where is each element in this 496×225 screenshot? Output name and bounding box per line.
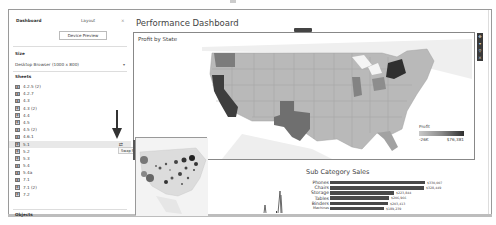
- sheet-label: 4.5: [23, 120, 30, 125]
- bar-row[interactable]: Machines $189,239: [300, 206, 480, 211]
- divider: [13, 46, 127, 47]
- symbol-map-thumbnail: [136, 138, 208, 216]
- legend-title: Profit: [419, 124, 469, 129]
- divider: [488, 10, 489, 214]
- bar-value: $223,844: [396, 191, 411, 195]
- dashboard-title: Performance Dashboard: [136, 18, 239, 28]
- bar[interactable]: [330, 191, 394, 195]
- drop-indicator: [133, 140, 135, 160]
- sheet-icon: ▦: [15, 142, 20, 147]
- bar-value: $328,449: [426, 186, 441, 190]
- sheet-label: 4.2.5 (2): [23, 84, 41, 89]
- sheets-section-title: Sheets: [15, 74, 31, 79]
- profit-legend: Profit -26K $76,381: [419, 124, 469, 143]
- tab-dashboard[interactable]: Dashboard: [16, 18, 42, 23]
- dropdown-icon[interactable]: ▾: [477, 40, 483, 47]
- sheet-item[interactable]: ▦5.4a: [15, 169, 127, 176]
- sheet-item[interactable]: ▦4.3: [15, 97, 127, 104]
- sheet-label: 4.2.7: [23, 91, 34, 96]
- sheet-item[interactable]: ▦4.4: [15, 112, 127, 119]
- tab-layout[interactable]: Layout: [81, 18, 95, 23]
- bar[interactable]: [330, 181, 425, 185]
- sheet-item[interactable]: ▦4.2.7: [15, 90, 127, 97]
- sheet-icon: ▦: [15, 185, 20, 190]
- sub-category-bar-chart: Phones $330,007 Chairs $328,449 Storage …: [300, 180, 480, 211]
- sheet-icon: ▦: [15, 128, 20, 133]
- bar-value: $330,007: [427, 181, 442, 185]
- sheet-icon: ▦: [15, 92, 20, 97]
- object-toolbar: ✥ ▾ ⚲ ×: [477, 33, 483, 61]
- close-icon[interactable]: ×: [477, 54, 483, 61]
- bar[interactable]: [330, 186, 424, 190]
- sub-category-title: Sub Category Sales: [306, 168, 370, 176]
- sheet-icon: ▦: [15, 85, 20, 90]
- sheet-item[interactable]: ▦5.2: [15, 148, 127, 155]
- sheet-icon: ▦: [15, 149, 20, 154]
- legend-max: $76,381: [447, 137, 464, 142]
- sheet-icon: ▦: [15, 99, 20, 104]
- bar-value: $203,413: [390, 202, 405, 206]
- horizontal-scrollbar[interactable]: [8, 214, 492, 217]
- sheet-icon: ▦: [15, 171, 20, 176]
- sheet-item[interactable]: ▦4.3 (2): [15, 105, 127, 112]
- sheet-icon: ▦: [15, 164, 20, 169]
- device-preview-button[interactable]: Device Preview: [59, 31, 107, 40]
- size-value: Desktop Browser (1000 x 800): [15, 62, 79, 67]
- sheet-icon: ▦: [15, 106, 20, 111]
- filter-icon[interactable]: ⚲: [477, 47, 483, 54]
- sheet-icon: ▦: [15, 135, 20, 140]
- sheet-label: 5.2: [23, 149, 30, 154]
- size-section-title: Size: [15, 51, 25, 56]
- sheet-item[interactable]: ▦4.5 (2): [15, 126, 127, 133]
- sheet-label: 7.1: [23, 177, 30, 182]
- sheet-item[interactable]: ▦4.2.5 (2): [15, 83, 127, 90]
- sheet-label: 4.3: [23, 98, 30, 103]
- close-icon[interactable]: ×: [121, 18, 125, 23]
- bar-value: $206,966: [391, 196, 406, 200]
- sheet-label: 5.4a: [23, 170, 32, 175]
- sheet-item[interactable]: ▦7.2: [15, 191, 127, 198]
- bar-value: $189,239: [386, 207, 401, 211]
- dragged-sheet-preview[interactable]: [135, 137, 207, 215]
- bar[interactable]: [330, 207, 384, 211]
- sheet-label: 4.4: [23, 113, 30, 118]
- sheet-label: 4.6.1: [23, 134, 34, 139]
- chevron-down-icon: ▾: [123, 62, 125, 67]
- sheet-icon: ▦: [15, 120, 20, 125]
- arrow-down-icon: [112, 110, 122, 140]
- sheet-label: 5.1: [23, 142, 30, 147]
- sheet-item[interactable]: ▦5.4: [15, 162, 127, 169]
- legend-min: -26K: [419, 137, 429, 142]
- map-title: Profit by State: [138, 36, 177, 42]
- sheet-item-selected[interactable]: ▦5.1⇄: [9, 141, 131, 148]
- sheet-item[interactable]: ▦4.6.1: [15, 133, 127, 140]
- sheet-label: 5.4: [23, 163, 30, 168]
- sheet-label: 7.2: [23, 192, 30, 197]
- legend-gradient: [419, 131, 464, 136]
- sheet-label: 7.1 (2): [23, 185, 37, 190]
- sheet-label: 4.3 (2): [23, 106, 37, 111]
- bar-label: Machines: [300, 206, 329, 211]
- sheet-icon: ▦: [15, 113, 20, 118]
- sheet-item[interactable]: ▦7.1: [15, 176, 127, 183]
- sheet-icon: ▦: [15, 178, 20, 183]
- sheet-item[interactable]: ▦7.1 (2): [15, 184, 127, 191]
- sheet-icon: ▦: [15, 156, 20, 161]
- sheets-list: ▦4.2.5 (2) ▦4.2.7 ▦4.3 ▦4.3 (2) ▦4.4 ▦4.…: [15, 83, 127, 198]
- sidebar-tabs: Dashboard Layout ×: [13, 18, 127, 28]
- bar[interactable]: [330, 196, 389, 200]
- sheet-label: 4.5 (2): [23, 127, 37, 132]
- divider: [13, 209, 127, 210]
- size-dropdown[interactable]: Desktop Browser (1000 x 800) ▾: [15, 62, 127, 69]
- sheet-item[interactable]: ▦4.5: [15, 119, 127, 126]
- objects-section-title: Objects: [15, 212, 33, 217]
- sheet-icon: ▦: [15, 192, 20, 197]
- divider: [13, 71, 127, 72]
- sheet-item[interactable]: ▦5.3: [15, 155, 127, 162]
- bar[interactable]: [330, 202, 388, 206]
- window-notch: [230, 0, 236, 3]
- move-icon[interactable]: ✥: [477, 33, 483, 40]
- sheet-label: 5.3: [23, 156, 30, 161]
- sparkline-chart: [258, 185, 298, 215]
